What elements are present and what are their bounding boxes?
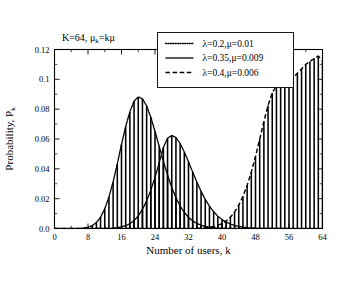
x-tick-label: 0 (52, 232, 56, 242)
y-axis-title: Probability, Pk (3, 107, 17, 171)
x-axis-title: Number of users, k (146, 244, 231, 256)
legend: λ=0.2,μ=0.01λ=0.35,μ=0.009λ=0.4,μ=0.006 (158, 33, 294, 88)
x-tick-label: 56 (285, 232, 294, 242)
legend-label: λ=0.2,μ=0.01 (203, 39, 255, 49)
legend-label: λ=0.35,μ=0.009 (203, 53, 264, 63)
x-tick-label: 8 (86, 232, 90, 242)
figure-container: 08162432404856640.00.020.040.060.080.10.… (0, 0, 348, 285)
svg-text:Probability, Pk: Probability, Pk (3, 107, 17, 171)
x-tick-label: 64 (318, 232, 327, 242)
y-tick-label: 0.02 (35, 194, 50, 204)
x-tick-label: 16 (117, 232, 126, 242)
x-tick-label: 24 (151, 232, 160, 242)
y-tick-label: 0.0 (39, 224, 50, 234)
probability-distribution-chart: 08162432404856640.00.020.040.060.080.10.… (0, 0, 348, 285)
legend-label: λ=0.4,μ=0.006 (203, 68, 259, 78)
x-tick-label: 40 (218, 232, 227, 242)
y-tick-label: 0.06 (35, 134, 50, 144)
y-tick-label: 0.12 (35, 45, 50, 55)
x-tick-label: 32 (184, 232, 193, 242)
chart-annotation: K=64, μk=kμ (62, 32, 115, 45)
y-tick-label: 0.1 (39, 74, 50, 84)
y-tick-label: 0.04 (35, 164, 51, 174)
y-tick-label: 0.08 (35, 104, 50, 114)
x-tick-label: 48 (251, 232, 260, 242)
